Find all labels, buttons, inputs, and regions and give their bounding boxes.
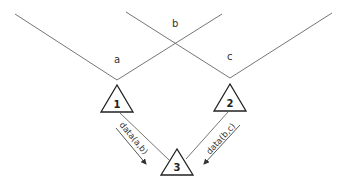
node-1-label: 1 <box>114 99 121 110</box>
diagram-canvas: a b c 1 2 3 data(a,b) data(b,c <box>0 0 351 181</box>
edge-label-bc: data(b,c) <box>204 121 237 156</box>
node-3-label: 3 <box>174 162 181 173</box>
label-c: c <box>227 51 233 62</box>
node-2-label: 2 <box>227 98 234 109</box>
line-a-right <box>117 14 222 80</box>
label-b: b <box>172 18 178 29</box>
diagram-svg: a b c 1 2 3 data(a,b) data(b,c <box>0 0 351 181</box>
arrow-data-ab: data(a,b) <box>116 120 150 164</box>
edge-label-ab: data(a,b) <box>117 120 150 156</box>
line-c-right <box>230 13 332 78</box>
arrow-data-bc: data(b,c) <box>204 121 240 164</box>
line-a-left <box>15 14 117 80</box>
node-2[interactable]: 2 <box>214 84 246 111</box>
label-a: a <box>114 54 120 65</box>
node-1[interactable]: 1 <box>101 85 133 112</box>
node-3[interactable]: 3 <box>161 149 193 175</box>
